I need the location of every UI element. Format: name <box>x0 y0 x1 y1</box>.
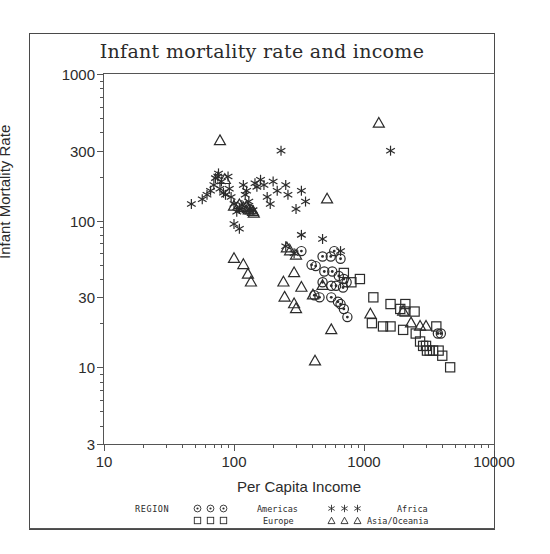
tick-mark <box>344 445 345 448</box>
data-point-africa <box>277 146 286 156</box>
circle-dot-icon <box>193 504 202 513</box>
data-point-europe <box>386 299 395 308</box>
data-point-africa <box>273 186 282 196</box>
tick-mark <box>182 445 183 448</box>
data-point-europe <box>369 293 378 302</box>
data-point-africa <box>284 190 293 200</box>
data-point-africa <box>281 180 290 190</box>
data-point-asia-oceania <box>278 276 289 286</box>
y-tick-label: 1000 <box>62 66 95 83</box>
tick-mark <box>325 445 326 448</box>
tick-mark <box>273 445 274 448</box>
tick-mark <box>104 445 105 451</box>
data-point-africa <box>318 234 327 244</box>
data-point-europe <box>355 274 364 283</box>
x-tick-label: 100 <box>221 453 246 470</box>
x-tick-label: 10000 <box>473 453 515 470</box>
y-tick-label: 100 <box>70 212 95 229</box>
data-point-europe <box>410 307 419 316</box>
data-point-europe <box>367 319 376 328</box>
asterisk-icon <box>340 504 349 513</box>
tick-mark <box>205 445 206 448</box>
data-point-asia-oceania <box>228 253 239 263</box>
asterisk-icon <box>327 504 336 513</box>
tick-mark <box>221 445 222 448</box>
data-point-europe <box>446 363 455 372</box>
tick-mark <box>474 445 475 448</box>
tick-mark <box>358 445 359 448</box>
tick-mark <box>442 445 443 448</box>
y-tick-label: 30 <box>78 289 95 306</box>
asterisk-icon <box>353 504 362 513</box>
data-point-americas <box>343 312 352 321</box>
tick-mark <box>335 445 336 448</box>
square-icon <box>193 516 202 525</box>
triangle-icon <box>327 516 336 525</box>
circle-dot-icon <box>206 504 215 513</box>
tick-mark <box>234 445 235 451</box>
data-point-americas <box>327 293 336 302</box>
chart-figure: Infant mortality rate and income Infant … <box>0 0 550 554</box>
tick-mark <box>195 445 196 448</box>
legend-label-europe: Europe <box>263 516 294 526</box>
tick-mark <box>488 445 489 448</box>
data-point-africa <box>292 204 301 214</box>
tick-mark <box>312 445 313 448</box>
y-tick-label: 300 <box>70 142 95 159</box>
data-point-africa <box>301 197 310 207</box>
data-point-africa <box>297 230 306 240</box>
data-point-asia-oceania <box>365 308 376 318</box>
square-icon <box>206 516 215 525</box>
tick-mark <box>214 445 215 448</box>
page-title: Infant mortality rate and income <box>29 40 495 62</box>
y-tick-label: 3 <box>87 436 95 453</box>
data-point-asia-oceania <box>289 267 300 277</box>
data-point-asia-oceania <box>310 355 321 365</box>
data-point-asia-oceania <box>238 259 249 269</box>
tick-mark <box>351 445 352 448</box>
x-tick-label: 1000 <box>347 453 380 470</box>
data-point-africa <box>187 199 196 209</box>
tick-mark <box>465 445 466 448</box>
tick-mark <box>403 445 404 448</box>
tick-mark <box>364 445 365 451</box>
legend-title: REGION <box>135 504 169 514</box>
x-tick-label: 10 <box>96 453 113 470</box>
y-axis-label: Infant Mortality Rate <box>0 125 13 259</box>
data-point-africa <box>225 184 234 194</box>
tick-mark <box>166 445 167 448</box>
legend-label-asia: Asia/Oceania <box>367 516 428 526</box>
y-tick-label: 10 <box>78 359 95 376</box>
data-point-asia-oceania <box>296 282 307 292</box>
data-point-africa <box>297 186 306 196</box>
legend: REGION Americas Europe Africa Asia/Ocean… <box>135 503 465 529</box>
data-point-africa <box>269 176 278 186</box>
legend-symbols-africa <box>327 504 362 513</box>
legend-symbols-asia <box>327 516 362 525</box>
tick-mark <box>426 445 427 448</box>
legend-symbols-americas <box>193 504 228 513</box>
legend-label-americas: Americas <box>257 504 298 514</box>
tick-mark <box>481 445 482 448</box>
legend-label-africa: Africa <box>397 504 428 514</box>
data-point-asia-oceania <box>373 117 384 127</box>
data-point-asia-oceania <box>322 193 333 203</box>
plot-area <box>103 73 495 445</box>
tick-mark <box>494 445 495 451</box>
tick-mark <box>296 445 297 448</box>
tick-mark <box>228 445 229 448</box>
tick-mark <box>143 445 144 448</box>
circle-dot-icon <box>219 504 228 513</box>
x-axis-label: Per Capita Income <box>103 478 495 495</box>
data-point-asia-oceania <box>214 135 225 145</box>
legend-symbols-europe <box>193 516 228 525</box>
data-point-asia-oceania <box>279 291 290 301</box>
triangle-icon <box>353 516 362 525</box>
triangle-icon <box>340 516 349 525</box>
data-point-asia-oceania <box>326 324 337 334</box>
data-point-africa <box>386 146 395 156</box>
square-icon <box>219 516 228 525</box>
data-points-layer <box>104 74 494 444</box>
tick-mark <box>455 445 456 448</box>
